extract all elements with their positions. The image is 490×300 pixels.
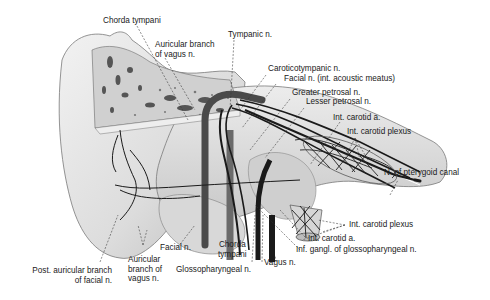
label-post-auricular-line1: Post. auricular branch <box>32 266 112 275</box>
label-auricular-branch-bottom-line2: branch of <box>128 265 162 274</box>
anatomical-illustration: Chorda tympani Auricular branch of vagus… <box>0 0 490 300</box>
label-caroticotympanic-n: Caroticotympanic n. <box>268 64 340 74</box>
label-int-carotid-plexus-bottom: Int. carotid plexus <box>349 220 413 230</box>
label-glossopharyngeal-n: Glossopharyngeal n. <box>176 265 251 275</box>
label-int-carotid-plexus-top: Int. carotid plexus <box>347 127 411 137</box>
label-auricular-branch-top: Auricular branch of vagus n. <box>155 40 215 59</box>
label-chorda-tympani-bottom: Chorda tympani <box>218 240 247 259</box>
label-facial-n: Facial n. <box>160 243 191 253</box>
label-lesser-petrosal-n: Lesser petrosal n. <box>306 97 371 107</box>
label-facial-n-meatus: Facial n. (int. acoustic meatus) <box>284 74 395 84</box>
label-n-pterygoid-canal: N. of pterygoid canal <box>384 168 459 178</box>
label-chorda-tympani-bottom-line2: tympani <box>218 250 247 259</box>
label-inf-gangl-glossopharyngeal: Inf. gangl. of glossopharyngeal n. <box>296 245 417 255</box>
label-post-auricular-line2: of facial n. <box>75 276 112 285</box>
label-auricular-branch-bottom-line3: vagus n. <box>128 274 159 283</box>
label-int-carotid-a-top: Int. carotid a. <box>333 113 380 123</box>
label-auricular-branch-bottom-line1: Auricular <box>128 255 160 264</box>
label-chorda-tympani-bottom-line1: Chorda <box>219 240 246 249</box>
label-auricular-branch-top-line2: of vagus n. <box>155 50 195 59</box>
label-chorda-tympani-top: Chorda tympani <box>103 16 161 26</box>
label-int-carotid-a-bottom: Int. carotid a. <box>308 234 355 244</box>
label-auricular-branch-top-line1: Auricular branch <box>155 40 215 49</box>
label-tympanic-n: Tympanic n. <box>228 30 272 40</box>
label-post-auricular-branch: Post. auricular branch of facial n. <box>22 266 112 285</box>
label-vagus-n: Vagus n. <box>264 258 296 268</box>
label-auricular-branch-bottom: Auricular branch of vagus n. <box>128 255 162 284</box>
